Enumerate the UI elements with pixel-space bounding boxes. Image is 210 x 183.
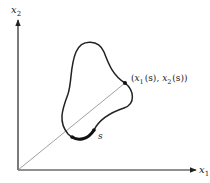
arc-start-dot: [70, 135, 74, 139]
position-vector-line: [18, 83, 125, 170]
arc-label: s: [98, 131, 103, 141]
point-coordinate-label: (x1(s), x2(s)): [131, 73, 188, 86]
closed-curve: [62, 42, 132, 139]
arc-length-segment: [72, 130, 94, 139]
vertical-axis-label: x2: [11, 4, 21, 18]
curve-point: [123, 81, 127, 85]
horizontal-axis-label: x1: [199, 164, 209, 178]
diagram-canvas: x2 x1 s (x1(s), x2(s)): [0, 0, 210, 183]
arc-end-dot: [92, 128, 96, 132]
